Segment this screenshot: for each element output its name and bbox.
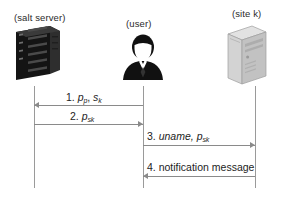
sequence-diagram: (salt server) (user) (site k) [0,0,284,199]
message-4-body: notification message [159,161,255,173]
message-3-body: uname, [159,130,194,142]
message-2-number: 2. [70,110,79,122]
message-1-arrow-line [34,105,143,106]
actor-label-site-k: (site k) [232,8,261,19]
message-4-arrow-line [143,176,255,177]
message-1-arrowhead [34,102,39,108]
message-4-arrowhead [143,173,148,179]
message-2-subscript: sk [88,116,95,123]
message-1-label: 1. pp, sk [66,91,102,104]
message-3-subscript: sk [202,136,209,143]
user-person-icon [119,30,167,82]
message-2-arrowhead [138,121,143,127]
message-1-number: 1. [66,91,75,103]
actor-label-user: (user) [126,18,151,29]
message-1-subscript: p [84,97,88,104]
server-rack-icon [14,24,64,82]
lifeline-site-k [255,86,256,188]
message-4-label: 4. notification message [147,161,254,173]
message-1-subscript2: k [98,97,101,104]
message-3-number: 3. [147,130,156,142]
desktop-tower-icon [222,22,270,88]
actor-label-salt-server: (salt server) [14,12,65,23]
message-4-number: 4. [147,161,156,173]
message-3-label: 3. uname, psk [147,130,209,143]
message-3-arrow-line [143,145,255,146]
message-2-label: 2. psk [70,110,94,123]
message-3-arrowhead [250,142,255,148]
message-2-arrow-line [34,124,143,125]
